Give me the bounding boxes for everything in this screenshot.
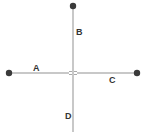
- node-top: [70, 3, 76, 9]
- label-a: A: [33, 64, 40, 73]
- label-c: C: [109, 76, 116, 85]
- label-d: D: [65, 112, 72, 121]
- label-b: B: [76, 28, 83, 37]
- diagram-canvas: [0, 0, 149, 132]
- node-left: [6, 70, 12, 76]
- node-right: [134, 70, 140, 76]
- line-hop-icon: [69, 69, 77, 77]
